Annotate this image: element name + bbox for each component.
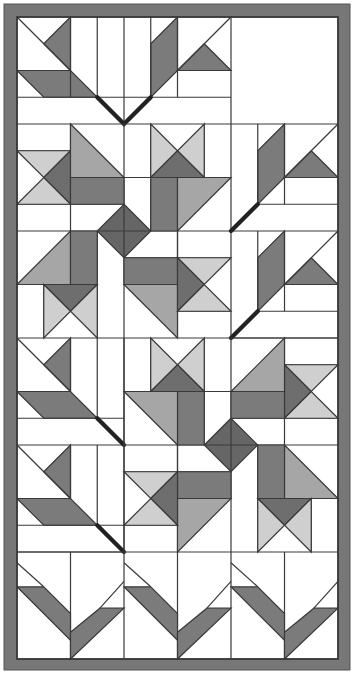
quilt-diagram <box>0 0 357 678</box>
block-pinwheel-left <box>17 124 231 338</box>
block-pinwheel-right <box>124 338 338 552</box>
